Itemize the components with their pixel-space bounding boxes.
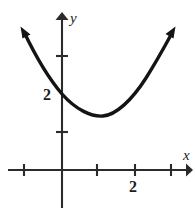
x-tick-label-2: 2 xyxy=(129,179,137,195)
x-axis-arrowhead xyxy=(186,164,193,177)
y-tick-label-2: 2 xyxy=(43,87,51,103)
plot-canvas xyxy=(0,0,195,211)
x-axis-label: x xyxy=(183,148,190,163)
y-axis-label: y xyxy=(70,11,77,26)
y-axis-arrowhead xyxy=(56,12,69,20)
parabola-figure: y x 2 2 xyxy=(0,0,195,211)
parabola-right-arrowhead xyxy=(166,27,176,39)
parabola-curve xyxy=(24,32,172,116)
x-axis-group xyxy=(8,164,193,177)
parabola-left-arrowhead xyxy=(21,27,31,39)
y-axis-group xyxy=(56,12,69,208)
